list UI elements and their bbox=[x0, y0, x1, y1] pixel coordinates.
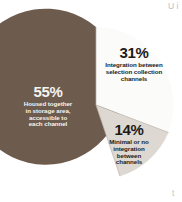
pie-label-55-line-4: each channel bbox=[5, 121, 91, 128]
pie-chart-figure: 31% Integration between selection collec… bbox=[0, 0, 182, 202]
pie-label-55-percent: 55% bbox=[5, 84, 91, 100]
pie-label-31-percent: 31% bbox=[96, 45, 172, 61]
pie-label-14: 14% Minimal or no integration between ch… bbox=[98, 122, 160, 166]
pie-label-14-percent: 14% bbox=[98, 122, 160, 138]
cropped-text-fragment-top-right: U i bbox=[168, 1, 182, 12]
pie-label-31: 31% Integration between selection collec… bbox=[96, 45, 172, 82]
cropped-text-fragment-bottom-right: t bbox=[172, 188, 182, 199]
pie-label-55: 55% Housed together in storage area, acc… bbox=[5, 84, 91, 128]
pie-label-31-line-3: channels bbox=[96, 76, 172, 83]
pie-label-14-line-4: channels bbox=[98, 159, 160, 166]
